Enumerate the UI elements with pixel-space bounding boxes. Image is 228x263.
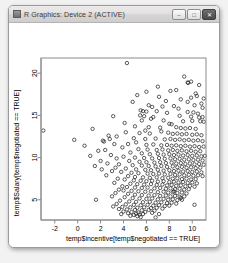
svg-text:10: 10 (31, 154, 38, 162)
minimize-icon: – (173, 12, 185, 18)
scatter-plot: -20246810 5101520 temp$incentive[temp$ne… (9, 23, 219, 247)
svg-text:20: 20 (31, 69, 38, 77)
window-controls: – □ ✕ (172, 9, 216, 20)
data-points (42, 61, 207, 219)
maximize-button[interactable]: □ (187, 9, 201, 20)
svg-text:6: 6 (144, 225, 148, 232)
desktop-background: R Graphics: Device 2 (ACTIVE) – □ ✕ -202… (0, 0, 228, 263)
y-axis-label: temp$Salary[temp$negotiated == TRUE] (13, 90, 21, 216)
svg-text:0: 0 (76, 225, 80, 232)
y-axis: 5101520 (31, 58, 41, 220)
minimize-button[interactable]: – (172, 9, 186, 20)
close-icon: ✕ (203, 12, 215, 18)
svg-text:2: 2 (99, 225, 103, 232)
x-axis: -20246810 (41, 220, 206, 232)
svg-text:5: 5 (31, 198, 38, 202)
svg-text:4: 4 (122, 225, 126, 232)
r-graphics-icon (13, 10, 21, 18)
close-button[interactable]: ✕ (202, 9, 216, 20)
window-title: R Graphics: Device 2 (ACTIVE) (24, 9, 125, 20)
svg-text:10: 10 (188, 225, 196, 232)
window-titlebar[interactable]: R Graphics: Device 2 (ACTIVE) – □ ✕ (9, 6, 219, 23)
plot-canvas: -20246810 5101520 temp$incentive[temp$ne… (9, 23, 219, 247)
svg-text:8: 8 (167, 225, 171, 232)
maximize-icon: □ (188, 12, 200, 18)
x-axis-label: temp$incentive[temp$negotiated == TRUE] (66, 235, 200, 243)
r-graphics-window: R Graphics: Device 2 (ACTIVE) – □ ✕ -202… (8, 5, 220, 248)
svg-text:-2: -2 (52, 225, 58, 232)
svg-text:15: 15 (31, 111, 38, 119)
